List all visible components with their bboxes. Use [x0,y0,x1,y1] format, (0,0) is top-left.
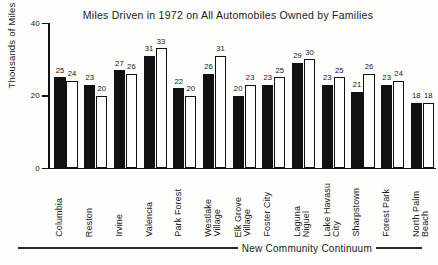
bar-value-label: 23 [323,74,332,82]
bar-value-label: 30 [305,49,314,57]
bar-group: 2220 [173,23,196,168]
bar-open: 25 [274,77,285,168]
bar-group: 2524 [54,23,77,168]
category-label: Foster City [263,171,286,237]
category-label-line: Columbia [55,198,64,237]
category-label-line: Village [243,209,252,237]
bar-value-label: 23 [382,74,391,82]
bar-value-label: 27 [115,60,124,68]
category-label: Park Forest [174,171,197,237]
bar-value-label: 25 [276,67,285,75]
category-label-line: Valencia [145,202,154,237]
bar-filled: 21 [351,92,362,168]
bar-value-label: 29 [293,52,302,60]
category-label: WestlakeVillage [204,171,227,237]
category-label: Columbia [55,171,78,237]
bar-value-label: 31 [145,45,154,53]
bar-group: 2126 [351,23,374,168]
category-label: Forest Park [382,171,405,237]
bar-value-label: 21 [353,81,362,89]
bar-value-label: 18 [424,92,433,100]
y-tick-mark [42,95,48,97]
category-label-line: Irvine [115,214,124,237]
category-label-line: Park Forest [174,189,183,237]
bar-value-label: 22 [174,78,183,86]
bar-value-label: 26 [365,63,374,71]
bar-value-label: 23 [264,74,273,82]
x-axis-title: New Community Continuum [238,243,376,254]
bar-open: 24 [393,81,404,168]
bar-group: 2325 [322,23,345,168]
bar-open: 20 [185,96,196,169]
bar-value-label: 26 [127,63,136,71]
bar-value-label: 24 [68,70,77,78]
category-label: Elk GroveVillage [234,171,257,237]
bar-group: 1818 [411,23,434,168]
category-label-line: Beach [421,211,430,237]
bar-filled: 25 [54,77,65,168]
bar-filled: 29 [292,63,303,168]
x-axis-category-labels: ColumbiaRestonIrvineValenciaPark ForestW… [50,171,436,237]
bar-filled: 23 [381,85,392,168]
category-label-line: Village [213,209,222,237]
bar-filled: 23 [262,85,273,168]
caption-rule-right [376,247,422,248]
bar-value-label: 23 [85,74,94,82]
bar-filled: 22 [173,88,184,168]
category-label: Irvine [115,171,138,237]
bar-group: 2023 [233,23,256,168]
bar-group: 2325 [262,23,285,168]
bar-value-label: 20 [97,85,106,93]
category-label: LagunaNiguel [293,171,316,237]
bar-value-label: 24 [394,70,403,78]
bar-open: 25 [334,77,345,168]
bar-value-label: 33 [157,38,166,46]
bar-value-label: 31 [216,45,225,53]
bar-value-label: 25 [335,67,344,75]
caption-rule-left [18,247,238,248]
bar-open: 18 [423,103,434,168]
bar-filled: 18 [411,103,422,168]
bar-open: 26 [126,74,137,168]
bar-filled: 23 [84,85,95,168]
bar-filled: 20 [233,96,244,169]
bar-value-label: 18 [412,92,421,100]
y-tick-label: 20 [18,91,40,100]
bar-filled: 27 [114,70,125,168]
bar-group: 3133 [144,23,167,168]
bar-filled: 26 [203,74,214,168]
bar-value-label: 26 [204,63,213,71]
bar-value-label: 20 [186,85,195,93]
bar-value-label: 25 [56,67,65,75]
category-label: Lake HavasuCity [323,171,346,237]
category-label: Valencia [145,171,168,237]
y-tick-label: 0 [18,164,40,173]
bar-open: 31 [215,56,226,168]
bar-open: 23 [245,85,256,168]
bar-open: 20 [96,96,107,169]
plot-area: 2524232027263133222026312023232529302325… [50,23,436,168]
bar-open: 33 [156,48,167,168]
bar-group: 2320 [84,23,107,168]
bar-open: 26 [363,74,374,168]
category-label-line: Niguel [302,211,311,237]
bar-open: 24 [66,81,77,168]
bar-group: 2324 [381,23,404,168]
y-axis-title: Thousands of Miles [6,0,17,111]
category-label: Reston [85,171,108,237]
category-label: Sharpstown [352,171,375,237]
y-tick-mark [42,168,48,170]
bar-filled: 31 [144,56,155,168]
category-label-line: Reston [85,208,94,237]
chart-title: Miles Driven in 1972 on All Automobiles … [58,9,398,21]
x-axis-caption: New Community Continuum [18,240,422,256]
bar-chart-figure: Miles Driven in 1972 on All Automobiles … [0,0,438,265]
category-label-line: Foster City [263,192,272,237]
category-label-line: City [332,221,341,237]
bar-group: 2930 [292,23,315,168]
category-label: North PalmBeach [412,171,435,237]
bar-open: 30 [304,59,315,168]
y-tick-label: 40 [18,19,40,28]
bar-group: 2631 [203,23,226,168]
bar-filled: 23 [322,85,333,168]
